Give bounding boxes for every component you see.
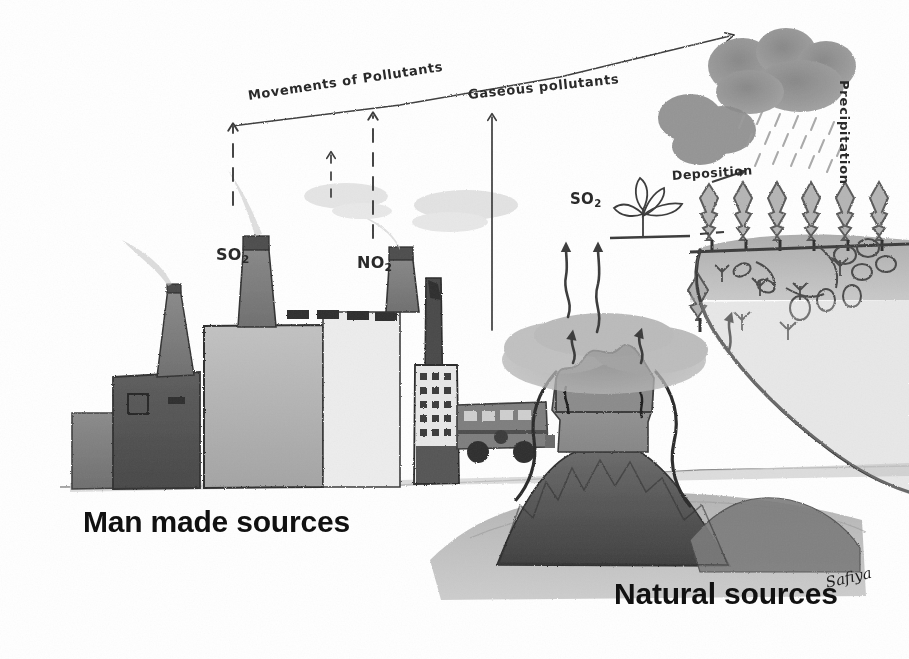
factory-complex [72, 236, 459, 489]
smoke-plumes [122, 170, 518, 286]
forest-hillside [688, 182, 909, 494]
pollution-diagram-illustration: Movements of Pollutants Gaseous pollutan… [0, 0, 909, 659]
so2-volcano-subscript: 2 [594, 198, 601, 209]
rain-clouds [658, 28, 856, 165]
so2-volcano-text: SO [570, 190, 594, 208]
label-so2-smokestack: SO2 [216, 245, 250, 266]
label-precipitation: Precipitation [837, 80, 852, 185]
caption-natural-sources: Natural sources [614, 577, 838, 611]
caption-man-made-sources: Man made sources [83, 505, 350, 539]
no2-subscript: 2 [385, 261, 393, 274]
scene-artwork [0, 0, 909, 659]
label-so2-volcano: SO2 [570, 190, 602, 209]
so2-subscript: 2 [242, 253, 250, 266]
label-no2-smokestack: NO2 [357, 253, 392, 274]
volcano-eruption-plume [502, 313, 708, 394]
no2-text: NO [357, 253, 385, 272]
so2-text: SO [216, 245, 242, 264]
bus-vehicle [457, 402, 555, 463]
precipitation-rain [739, 112, 842, 172]
